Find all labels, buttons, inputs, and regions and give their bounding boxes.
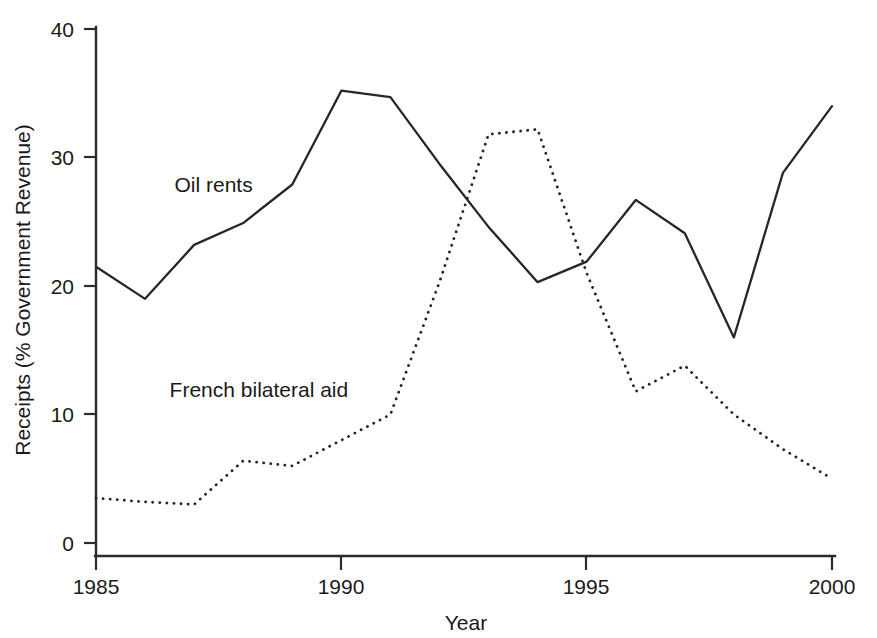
y-tick-label-0: 0	[62, 532, 74, 555]
series-annotation-oil-rents: Oil rents	[175, 173, 253, 196]
y-axis-ticks	[84, 29, 96, 543]
x-tick-label-1985: 1985	[73, 575, 120, 598]
chart-figure: 40 30 20 10 0 1985 1990 1995 2000 Year R…	[0, 0, 877, 638]
x-axis-title: Year	[445, 611, 487, 634]
y-axis-title: Receipts (% Government Revenue)	[11, 124, 34, 455]
x-axis-tick-labels: 1985 1990 1995 2000	[73, 575, 856, 598]
series-annotation-french-bilateral-aid: French bilateral aid	[170, 378, 349, 401]
y-axis-tick-labels: 40 30 20 10 0	[51, 18, 74, 555]
x-tick-label-2000: 2000	[809, 575, 856, 598]
y-tick-label-40: 40	[51, 18, 74, 41]
x-axis-ticks	[96, 556, 832, 570]
y-tick-label-10: 10	[51, 403, 74, 426]
y-tick-label-20: 20	[51, 275, 74, 298]
line-chart-svg: 40 30 20 10 0 1985 1990 1995 2000 Year R…	[0, 0, 877, 638]
y-tick-label-30: 30	[51, 146, 74, 169]
x-tick-label-1990: 1990	[318, 575, 365, 598]
series-line-oil-rents	[96, 91, 832, 338]
x-tick-label-1995: 1995	[563, 575, 610, 598]
